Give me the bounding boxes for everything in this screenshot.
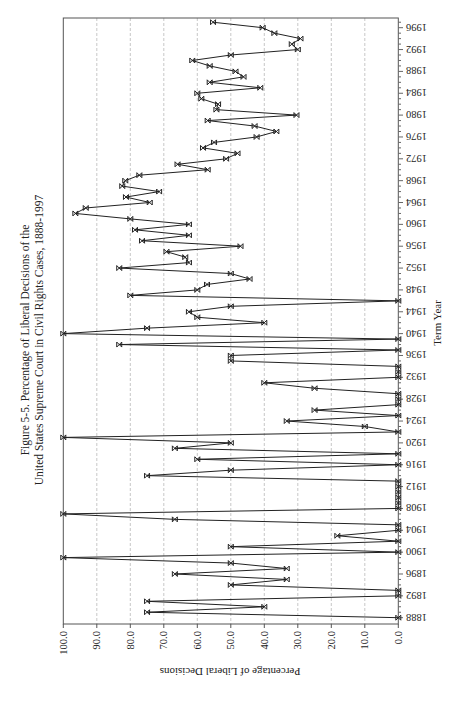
year-tick-label: 1956 <box>406 240 427 251</box>
chart-root: Figure 5-5. Percentage of Liberal Decisi… <box>0 0 459 701</box>
year-tick-label: 1916 <box>406 459 427 470</box>
year-tick-label: 1980 <box>406 109 427 120</box>
data-point-marker <box>199 96 204 101</box>
data-point-marker <box>216 102 221 107</box>
percentage-tick-label: 30.0 <box>292 631 303 649</box>
percentage-tick-label: 10.0 <box>359 631 370 649</box>
year-tick-label: 1952 <box>406 262 427 273</box>
year-tick-label: 1964 <box>405 197 427 208</box>
gridlines <box>97 18 365 624</box>
year-tick-label: 1912 <box>406 481 427 492</box>
year-tick-label: 1920 <box>406 437 427 448</box>
year-tick-label: 1904 <box>405 524 427 535</box>
percentage-tick-label: 50.0 <box>225 631 236 649</box>
percentage-tick-label: 0.0 <box>393 631 404 644</box>
year-tick-label: 1972 <box>406 153 427 164</box>
percentage-tick-label: 20.0 <box>326 631 337 649</box>
data-point-marker <box>123 178 128 183</box>
data-point-marker <box>289 42 294 47</box>
year-tick-label: 1892 <box>406 590 427 601</box>
year-tick-label: 1996 <box>406 22 427 33</box>
year-tick-label: 1984 <box>405 87 427 98</box>
chart-title-line1: Figure 5-5. Percentage of Liberal Decisi… <box>19 225 32 456</box>
percentage-tick-label: 100.0 <box>58 631 69 655</box>
year-tick-label: 1924 <box>405 415 427 426</box>
year-tick-label: 1908 <box>406 502 427 513</box>
year-tick-label: 1960 <box>406 218 427 229</box>
percentage-tick-label: 70.0 <box>158 631 169 649</box>
year-tick-label: 1932 <box>406 371 427 382</box>
year-axis: 1888189218961900190419081912191619201924… <box>398 22 427 623</box>
percentage-tick-label: 60.0 <box>192 631 203 649</box>
chart-title-line2: United States Supreme Court in Civil Rig… <box>33 195 46 486</box>
year-tick-label: 1936 <box>406 349 427 360</box>
year-tick-label: 1944 <box>405 306 427 317</box>
year-tick-label: 1988 <box>406 65 427 76</box>
y-axis-label: Percentage of Liberal Decisions <box>160 666 301 678</box>
year-tick-label: 1940 <box>406 328 427 339</box>
year-tick-label: 1948 <box>406 284 427 295</box>
year-tick-label: 1900 <box>406 546 427 557</box>
year-tick-label: 1928 <box>406 393 427 404</box>
percentage-axis: 0.010.020.030.040.050.060.070.080.090.01… <box>58 624 404 655</box>
percentage-tick-label: 90.0 <box>91 631 102 649</box>
percentage-tick-label: 80.0 <box>125 631 136 649</box>
x-axis-label: Term Year <box>431 300 443 346</box>
year-tick-label: 1976 <box>406 131 427 142</box>
year-tick-label: 1896 <box>406 568 427 579</box>
year-tick-label: 1888 <box>406 612 427 623</box>
year-tick-label: 1968 <box>406 175 427 186</box>
percentage-tick-label: 40.0 <box>259 631 270 649</box>
year-tick-label: 1992 <box>406 44 427 55</box>
